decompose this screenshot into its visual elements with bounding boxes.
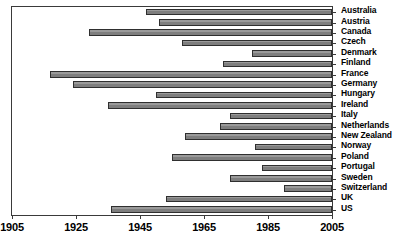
bar-row [12, 132, 332, 142]
bar-row [12, 28, 332, 38]
category-label-netherlands: Netherlands [341, 121, 389, 130]
category-tick-mark [332, 210, 336, 211]
range-bar-italy[interactable] [230, 113, 332, 120]
range-bar-norway[interactable] [255, 144, 332, 151]
bar-row [12, 69, 332, 79]
range-bar-germany[interactable] [73, 81, 332, 88]
bar-row [12, 59, 332, 69]
plot-area [11, 6, 333, 216]
range-bar-new-zealand[interactable] [185, 133, 332, 140]
category-tick-mark [332, 158, 336, 159]
range-bar-canada[interactable] [89, 29, 332, 36]
category-label-austria: Austria [341, 17, 370, 26]
x-tick-1945 [140, 216, 141, 219]
bar-row [12, 205, 332, 215]
range-bar-chart: AustraliaAustriaCanadaCzechDenmarkFinlan… [0, 0, 409, 245]
range-bar-netherlands[interactable] [220, 123, 332, 130]
range-bar-hungary[interactable] [156, 92, 332, 99]
range-bar-us[interactable] [111, 206, 332, 213]
category-tick-mark [332, 127, 336, 128]
bar-row [12, 163, 332, 173]
category-label-us: US [341, 204, 353, 213]
x-tick-label-1925: 1925 [64, 221, 88, 233]
bar-row [12, 101, 332, 111]
x-tick-2005 [332, 216, 333, 219]
range-bar-austria[interactable] [159, 19, 332, 26]
bar-row [12, 153, 332, 163]
x-tick-label-1985: 1985 [256, 221, 280, 233]
category-tick-mark [332, 75, 336, 76]
range-bar-portugal[interactable] [262, 165, 332, 172]
bar-row [12, 90, 332, 100]
range-bar-sweden[interactable] [230, 175, 332, 182]
category-label-uk: UK [341, 193, 353, 202]
x-tick-label-1905: 1905 [0, 221, 24, 233]
category-tick-mark [332, 54, 336, 55]
category-label-italy: Italy [341, 110, 358, 119]
category-tick-mark [332, 23, 336, 24]
category-label-switzerland: Switzerland [341, 183, 387, 192]
category-tick-mark [332, 64, 336, 65]
bar-row [12, 49, 332, 59]
category-tick-mark [332, 137, 336, 138]
range-bar-denmark[interactable] [252, 50, 332, 57]
range-bar-ireland[interactable] [108, 102, 332, 109]
x-tick-1965 [204, 216, 205, 219]
category-label-hungary: Hungary [341, 89, 375, 98]
x-tick-label-2005: 2005 [320, 221, 344, 233]
category-label-norway: Norway [341, 141, 371, 150]
category-tick-mark [332, 95, 336, 96]
category-label-czech: Czech [341, 37, 366, 46]
bar-row [12, 142, 332, 152]
bar-row [12, 194, 332, 204]
x-axis-tick-marks [11, 216, 333, 220]
category-label-ireland: Ireland [341, 100, 368, 109]
category-label-sweden: Sweden [341, 173, 373, 182]
bar-row [12, 17, 332, 27]
category-label-finland: Finland [341, 58, 371, 67]
category-tick-mark [332, 33, 336, 34]
x-tick-1925 [76, 216, 77, 219]
category-tick-mark [332, 116, 336, 117]
category-label-new-zealand: New Zealand [341, 131, 392, 140]
category-tick-mark [332, 199, 336, 200]
range-bar-uk[interactable] [166, 196, 332, 203]
x-tick-1985 [268, 216, 269, 219]
range-bar-switzerland[interactable] [284, 185, 332, 192]
x-tick-label-1965: 1965 [192, 221, 216, 233]
category-tick-mark [332, 168, 336, 169]
category-label-denmark: Denmark [341, 48, 377, 57]
category-tick-mark [332, 12, 336, 13]
range-bar-france[interactable] [50, 71, 332, 78]
range-bar-australia[interactable] [146, 9, 332, 16]
category-label-canada: Canada [341, 27, 371, 36]
range-bar-finland[interactable] [223, 61, 332, 68]
category-tick-mark [332, 43, 336, 44]
bar-row [12, 121, 332, 131]
category-label-germany: Germany [341, 79, 377, 88]
x-tick-1905 [12, 216, 13, 219]
bar-row [12, 184, 332, 194]
bar-row [12, 7, 332, 17]
category-tick-mark [332, 179, 336, 180]
category-label-australia: Australia [341, 6, 376, 15]
category-tick-mark [332, 147, 336, 148]
category-tick-mark [332, 85, 336, 86]
category-label-france: France [341, 69, 368, 78]
range-bar-poland[interactable] [172, 154, 332, 161]
category-tick-mark [332, 189, 336, 190]
bar-row [12, 38, 332, 48]
range-bar-czech[interactable] [182, 40, 332, 47]
category-label-poland: Poland [341, 152, 369, 161]
x-tick-label-1945: 1945 [128, 221, 152, 233]
bar-row [12, 173, 332, 183]
bar-row [12, 111, 332, 121]
bar-row [12, 80, 332, 90]
category-tick-mark [332, 106, 336, 107]
category-label-portugal: Portugal [341, 162, 375, 171]
